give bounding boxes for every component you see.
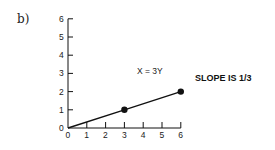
x-tick-label: 2 bbox=[103, 130, 108, 140]
y-tick-label: 5 bbox=[59, 32, 64, 42]
x-tick-label: 3 bbox=[122, 130, 127, 140]
data-point bbox=[121, 107, 127, 113]
data-point bbox=[178, 88, 184, 94]
y-tick-label: 4 bbox=[59, 50, 64, 60]
x-tick-label: 4 bbox=[141, 130, 146, 140]
line-chart: 01234560123456 X = 3Y SLOPE IS 1/3 bbox=[0, 0, 275, 150]
x-tick-label: 6 bbox=[178, 130, 183, 140]
x-tick-label: 0 bbox=[66, 130, 71, 140]
y-tick-label: 1 bbox=[59, 105, 64, 115]
data-series bbox=[68, 88, 184, 128]
equation-label: X = 3Y bbox=[137, 66, 163, 76]
y-tick-label: 6 bbox=[59, 14, 64, 24]
slope-label: SLOPE IS 1/3 bbox=[195, 73, 252, 83]
y-tick-label: 2 bbox=[59, 87, 64, 97]
x-tick-label: 5 bbox=[160, 130, 165, 140]
ticks: 01234560123456 bbox=[59, 14, 183, 140]
x-tick-label: 1 bbox=[84, 130, 89, 140]
y-tick-label: 0 bbox=[59, 123, 64, 133]
y-tick-label: 3 bbox=[59, 68, 64, 78]
